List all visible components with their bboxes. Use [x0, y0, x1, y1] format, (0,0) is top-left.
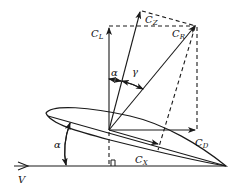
drag-label: CD	[195, 137, 209, 150]
lift-label: CL	[91, 28, 104, 41]
alpha-label-top: α	[111, 67, 118, 78]
resultant-vector	[109, 26, 195, 130]
resultant-label: CR	[172, 28, 186, 41]
right-angle-mark	[111, 160, 115, 166]
velocity-label: V	[18, 174, 27, 185]
airfoil-force-diagram: CL CZ CR CD CX α γ α V	[0, 0, 237, 191]
alpha-label-left: α	[54, 139, 61, 150]
axial-force-label: CX	[135, 154, 149, 167]
normal-force-label: CZ	[145, 14, 158, 27]
gamma-label: γ	[132, 66, 138, 77]
